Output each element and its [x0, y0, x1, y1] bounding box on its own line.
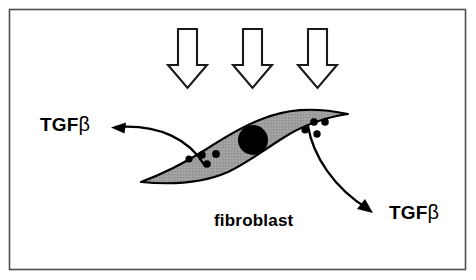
cell-nucleus [238, 125, 268, 155]
granule [212, 150, 220, 158]
label-tgfb-right-prefix: TGF [389, 202, 428, 223]
diagram-canvas [0, 0, 476, 280]
label-tgfb-left: TGFβ [40, 115, 90, 135]
granule [310, 118, 318, 126]
label-tgfb-right-beta: β [428, 201, 440, 223]
label-tgfb-left-prefix: TGF [40, 114, 79, 135]
label-fibroblast: fibroblast [214, 212, 293, 229]
figure-root: TGFβ TGFβ fibroblast [0, 0, 476, 280]
label-tgfb-left-beta: β [79, 113, 91, 135]
granule [185, 155, 192, 162]
stimulus-arrow-group [168, 29, 337, 88]
label-tgfb-right: TGFβ [389, 203, 439, 223]
granule [321, 118, 329, 126]
granule [313, 130, 320, 137]
